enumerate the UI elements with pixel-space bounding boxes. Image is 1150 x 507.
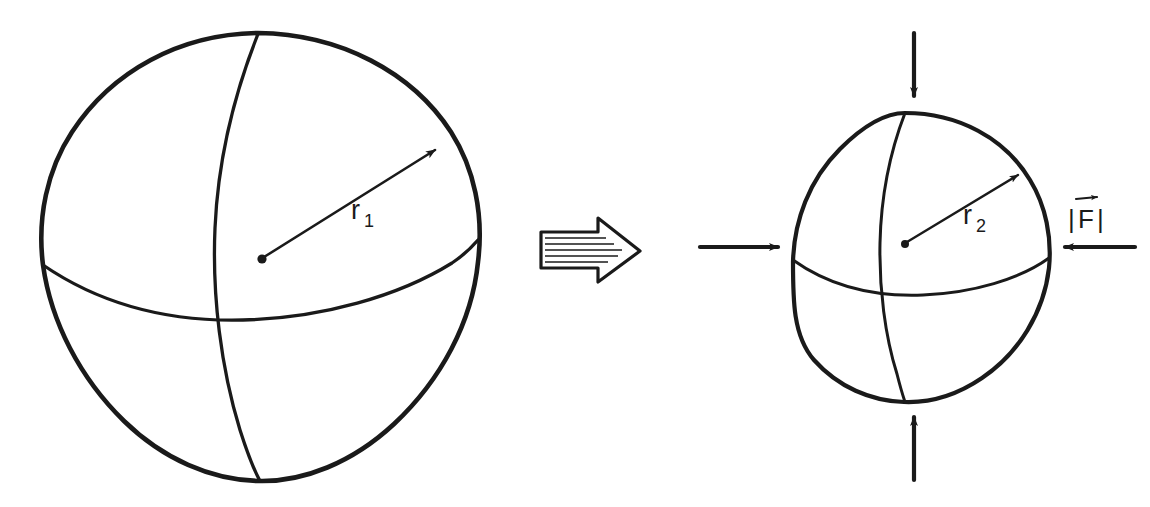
right-sphere-meridian <box>880 113 905 402</box>
right-radius-subscript: 2 <box>976 216 986 236</box>
left-sphere-radius-arrow <box>264 150 435 257</box>
right-radius-label: r 2 <box>963 200 986 236</box>
diagram-canvas: r 1 r 2 <box>0 0 1150 507</box>
force-label-left-bar: | <box>1068 204 1075 234</box>
force-label-right-bar: | <box>1097 204 1104 234</box>
force-label-symbol: F <box>1078 204 1094 234</box>
left-sphere-equator <box>43 240 478 320</box>
left-sphere-meridian <box>214 34 260 481</box>
force-arrows-group <box>700 33 1135 480</box>
right-sphere-group: r 2 <box>793 113 1050 402</box>
sphere-compression-diagram: r 1 r 2 <box>0 0 1150 507</box>
left-radius-symbol: r <box>351 195 360 225</box>
transition-arrow-hatching <box>545 238 622 262</box>
right-sphere-equator <box>793 258 1049 295</box>
left-sphere-group: r 1 <box>41 33 479 481</box>
left-radius-subscript: 1 <box>364 211 374 231</box>
transition-arrow-group <box>541 218 640 282</box>
force-label-vector-arrow <box>1076 197 1097 199</box>
right-radius-symbol: r <box>963 200 972 230</box>
force-magnitude-label: | F | <box>1068 197 1104 234</box>
left-radius-label: r 1 <box>351 195 374 231</box>
right-sphere-outline <box>793 113 1050 402</box>
